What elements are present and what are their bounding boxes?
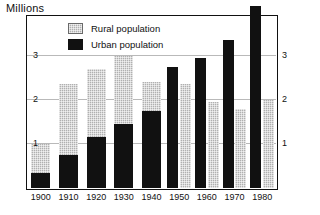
bar-urban-1900[interactable]: [31, 173, 50, 188]
x-tick-1960: 1960: [193, 192, 221, 202]
y-tick-left-3: 3: [22, 51, 38, 60]
urban-swatch-icon: [68, 39, 83, 50]
bar-urban-1940[interactable]: [142, 111, 161, 188]
x-axis-labels: 190019101920193019401950196019701980: [27, 192, 276, 206]
bar-rural-1970[interactable]: [235, 109, 246, 188]
legend-label-urban: Urban population: [91, 39, 163, 50]
legend-label-rural: Rural population: [91, 23, 160, 34]
bar-rural-1960[interactable]: [208, 102, 219, 188]
bar-urban-1950[interactable]: [167, 67, 178, 188]
bar-rural-1950[interactable]: [180, 84, 191, 188]
x-tick-1910: 1910: [55, 192, 83, 202]
bar-urban-1960[interactable]: [195, 58, 206, 188]
bar-urban-1980[interactable]: [250, 6, 261, 188]
bar-group-1980[interactable]: [248, 16, 276, 188]
legend-item-rural: Rural population: [68, 22, 163, 35]
y-tick-right-3: 3: [282, 51, 298, 60]
bar-group-1960[interactable]: [193, 16, 221, 188]
chart-axis-unit-title: Millions: [6, 2, 44, 14]
y-tick-right-2: 2: [282, 95, 298, 104]
bar-urban-1910[interactable]: [59, 155, 78, 188]
x-tick-1970: 1970: [221, 192, 249, 202]
y-tick-left-1: 1: [22, 139, 38, 148]
bar-urban-1970[interactable]: [223, 40, 234, 188]
bar-rural-1980[interactable]: [263, 100, 274, 188]
bar-urban-1930[interactable]: [114, 124, 133, 188]
x-tick-1900: 1900: [27, 192, 55, 202]
x-tick-1980: 1980: [248, 192, 276, 202]
bar-group-1950[interactable]: [165, 16, 193, 188]
x-tick-1920: 1920: [82, 192, 110, 202]
population-bar-chart: Millions 112233 190019101920193019401950…: [0, 0, 320, 215]
bar-urban-1920[interactable]: [87, 137, 106, 188]
chart-legend: Rural population Urban population: [68, 22, 163, 54]
x-tick-1950: 1950: [165, 192, 193, 202]
y-tick-right-1: 1: [282, 139, 298, 148]
x-tick-1940: 1940: [138, 192, 166, 202]
legend-item-urban: Urban population: [68, 38, 163, 51]
x-tick-1930: 1930: [110, 192, 138, 202]
bar-group-1970[interactable]: [221, 16, 249, 188]
rural-swatch-icon: [68, 23, 83, 34]
y-tick-left-2: 2: [22, 95, 38, 104]
